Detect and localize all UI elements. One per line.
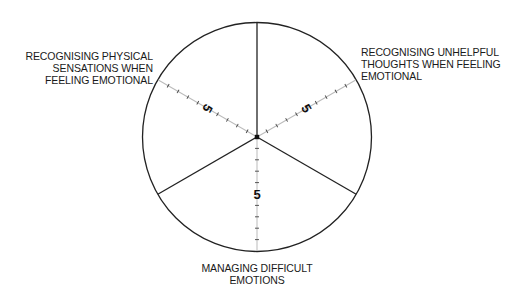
label-recognising-physical-sensations: RECOGNISING PHYSICAL SENSATIONS WHEN FEE… [25, 50, 153, 86]
label-line: RECOGNISING PHYSICAL [25, 50, 153, 62]
scale-label-thoughts: 5 [298, 102, 315, 116]
label-line: FEELING EMOTIONAL [25, 74, 153, 86]
label-managing-difficult-emotions: MANAGING DIFFICULT EMOTIONS [0, 262, 514, 286]
label-line: EMOTIONS [0, 274, 514, 286]
scale-physical: 5 [156, 77, 258, 140]
label-recognising-unhelpful-thoughts: RECOGNISING UNHELPFUL THOUGHTS WHEN FEEL… [361, 46, 501, 82]
label-line: RECOGNISING UNHELPFUL [361, 46, 501, 58]
scale-label-managing: 5 [253, 187, 260, 202]
scale-managing: 5 [253, 137, 260, 251]
center-point [255, 135, 259, 139]
label-line: SENSATIONS WHEN [25, 62, 153, 74]
label-line: MANAGING DIFFICULT [0, 262, 514, 274]
divider-bottom-left [158, 137, 257, 194]
divider-bottom-right [257, 137, 356, 194]
scale-thoughts: 5 [255, 77, 357, 140]
scale-label-physical: 5 [199, 102, 216, 116]
label-line: THOUGHTS WHEN FEELING [361, 58, 501, 70]
wheel-diagram: 5 5 5 [0, 0, 528, 299]
label-line: EMOTIONAL [361, 70, 501, 82]
